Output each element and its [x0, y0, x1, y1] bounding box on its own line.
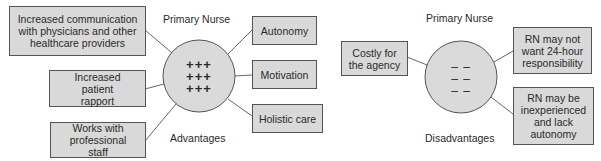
plus-row: +++ [179, 83, 219, 95]
advantage-box-communication: Increased communication with physicians … [9, 6, 146, 56]
minus-row: – – [443, 85, 479, 97]
disadvantage-box-inexperienced: RN may be inexperienced and lack autonom… [513, 87, 594, 145]
minus-symbols: – – – – – – [443, 61, 479, 97]
advantage-box-patient-rapport: Increased patient rapport [49, 70, 146, 107]
disadvantage-box-costly: Costly for the agency [341, 41, 408, 76]
plus-symbols: +++ +++ +++ [179, 59, 219, 95]
disadvantages-caption: Disadvantages [425, 132, 494, 144]
disadvantage-box-24-hour: RN may not want 24-hour responsibility [513, 27, 592, 74]
advantage-box-motivation: Motivation [252, 60, 317, 89]
advantage-box-professional-staff: Works with professional staff [50, 122, 146, 158]
advantages-title: Primary Nurse [163, 13, 230, 25]
advantages-caption: Advantages [170, 132, 225, 144]
disadvantages-title: Primary Nurse [426, 12, 493, 24]
advantage-box-holistic-care: Holistic care [252, 104, 323, 133]
advantage-box-autonomy: Autonomy [252, 16, 317, 45]
